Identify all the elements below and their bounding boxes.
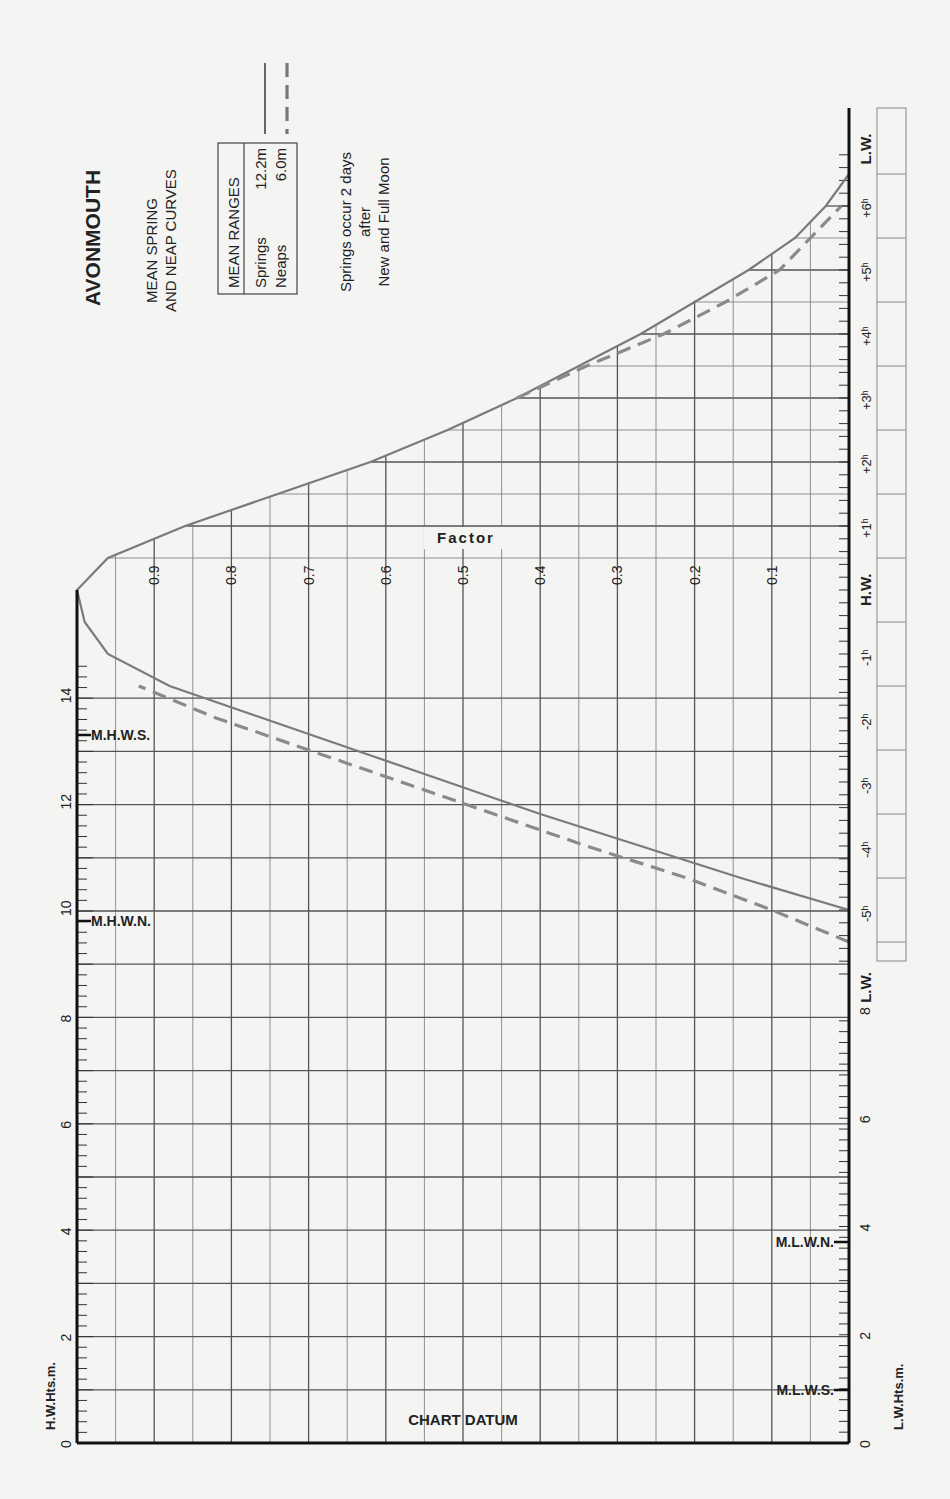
factor-tick-label: 0.2: [687, 565, 703, 585]
springs-label: Springs: [252, 237, 269, 288]
hw-height-tick-label: 14: [58, 687, 74, 703]
time-tick-label: H.W.: [857, 574, 874, 607]
port-title: AVONMOUTH: [81, 170, 104, 306]
chart-grid: [77, 174, 849, 1443]
hw-height-tick-label: 0: [58, 1440, 74, 1448]
time-tick-label: +2ʰ: [859, 454, 874, 474]
springs-value: 12.2m: [252, 148, 269, 190]
time-tick-label: +1ʰ: [859, 518, 874, 538]
lw-height-tick-label: 6: [857, 1115, 873, 1123]
time-tick-label: -3ʰ: [859, 777, 874, 794]
lw-height-tick-label: 4: [857, 1224, 873, 1232]
hw-heights-axis-title: H.W.Hts.m.: [43, 1362, 58, 1430]
mhws-label: M.H.W.S.: [91, 727, 150, 743]
tidal-curve-chart: AVONMOUTH MEAN SPRING AND NEAP CURVES ME…: [0, 0, 950, 1499]
time-tick-label: L.W.: [857, 972, 874, 1003]
factor-tick-label: 0.5: [455, 565, 471, 585]
factor-tick-label: 0.1: [764, 565, 780, 585]
factor-axis-label: Factor: [437, 529, 495, 546]
time-axis-box: [877, 108, 906, 961]
time-tick-label: +4ʰ: [859, 326, 874, 346]
time-axis-divisions: [877, 174, 906, 942]
hw-height-tick-label: 10: [58, 900, 74, 916]
neaps-label: Neaps: [272, 245, 289, 288]
hw-height-tick-label: 2: [58, 1334, 74, 1342]
lw-heights-axis-title: L.W.Hts.m.: [891, 1364, 906, 1430]
time-tick-label: +3ʰ: [859, 390, 874, 410]
hw-height-labels: 02468101214: [58, 687, 74, 1448]
factor-tick-label: 0.4: [532, 565, 548, 585]
factor-tick-label: 0.6: [378, 565, 394, 585]
lw-height-labels: 02468: [857, 1007, 873, 1448]
time-tick-label: -1ʰ: [859, 649, 874, 666]
mlwn-label: M.L.W.N.: [776, 1234, 834, 1250]
neaps-value: 6.0m: [272, 148, 289, 181]
factor-tick-label: 0.8: [223, 565, 239, 585]
note-line1: Springs occur 2 days: [337, 152, 354, 292]
factor-tick-labels: 0.90.80.70.60.50.40.30.20.1: [146, 565, 780, 585]
mhwn-label: M.H.W.N.: [91, 913, 151, 929]
lw-height-tick-label: 0: [857, 1440, 873, 1448]
subtitle-line2: AND NEAP CURVES: [162, 169, 179, 312]
neap-curve: [139, 206, 849, 942]
note-line2: after: [356, 207, 373, 237]
note-line3: New and Full Moon: [375, 157, 392, 286]
factor-tick-label: 0.7: [301, 565, 317, 585]
lw-height-tick-label: 8: [857, 1007, 873, 1015]
mean-ranges-title: MEAN RANGES: [225, 177, 242, 288]
time-axis-labels: L.W.-5ʰ-4ʰ-3ʰ-2ʰ-1ʰH.W.+1ʰ+2ʰ+3ʰ+4ʰ+5ʰ+6…: [857, 134, 874, 1003]
time-tick-label: -5ʰ: [859, 905, 874, 922]
hw-height-tick-label: 8: [58, 1014, 74, 1022]
time-tick-label: L.W.: [857, 134, 874, 165]
time-tick-label: -4ʰ: [859, 841, 874, 858]
chart-datum-label: CHART DATUM: [408, 1411, 518, 1428]
time-tick-label: -2ʰ: [859, 713, 874, 730]
hw-height-tick-label: 4: [58, 1227, 74, 1235]
time-tick-label: +5ʰ: [859, 262, 874, 282]
mlws-label: M.L.W.S.: [776, 1382, 834, 1398]
subtitle-line1: MEAN SPRING: [143, 198, 160, 303]
time-tick-label: +6ʰ: [859, 198, 874, 218]
factor-tick-label: 0.9: [146, 565, 162, 585]
factor-tick-label: 0.3: [609, 565, 625, 585]
hw-height-tick-label: 6: [58, 1121, 74, 1129]
hw-height-tick-label: 12: [58, 794, 74, 810]
lw-height-tick-label: 2: [857, 1332, 873, 1340]
